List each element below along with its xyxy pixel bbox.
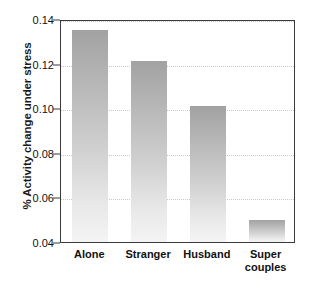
y-axis-tick-mark xyxy=(53,20,60,21)
y-axis-tick-mark xyxy=(53,153,60,154)
y-axis-tick-label: 0.12 xyxy=(14,59,54,71)
bar-chart-figure: % Activity change under stress 0.040.060… xyxy=(0,0,310,286)
plot-area xyxy=(60,20,295,243)
y-axis-tick-label: 0.06 xyxy=(14,192,54,204)
y-axis-tick-label: 0.14 xyxy=(14,14,54,26)
bar xyxy=(190,106,226,242)
y-axis-tick-label: 0.10 xyxy=(14,103,54,115)
gridline xyxy=(61,21,294,22)
bar xyxy=(249,220,285,242)
y-axis-tick-mark xyxy=(53,243,60,244)
y-axis-title: % Activity change under stress xyxy=(21,6,33,246)
y-axis-tick-mark xyxy=(53,64,60,65)
y-axis-tick-mark xyxy=(53,109,60,110)
bar xyxy=(131,61,167,242)
bar xyxy=(72,30,108,242)
x-axis-tick-label: Super couples xyxy=(226,248,306,274)
y-axis-tick-label: 0.04 xyxy=(14,237,54,249)
y-axis-tick-mark xyxy=(53,198,60,199)
y-axis-tick-label: 0.08 xyxy=(14,148,54,160)
